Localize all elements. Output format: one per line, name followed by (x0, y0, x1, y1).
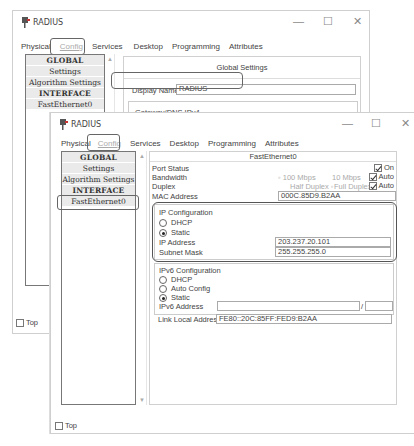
titlebar: RADIUS — ☐ ✕ (13, 11, 369, 33)
sidebar-global: GLOBAL (26, 55, 104, 66)
ipv6-static-radio[interactable] (159, 294, 167, 302)
tab-programming[interactable]: Programming (172, 41, 220, 55)
full-duplex-radio[interactable]: Full Duplex (334, 182, 372, 191)
maximize-button[interactable]: ☐ (371, 117, 381, 130)
top-checkbox-row[interactable]: Top (55, 421, 77, 430)
top-checkbox[interactable] (16, 319, 24, 327)
ipv6-title: IPv6 Configuration (159, 266, 221, 275)
bandwidth-100-radio[interactable]: ◦ 100 Mbps (278, 173, 316, 182)
ipv6-dhcp-radio[interactable] (159, 276, 167, 284)
sidebar-item-algorithm[interactable]: Algorithm Settings (26, 77, 104, 88)
sidebar-item-settings[interactable]: Settings (62, 163, 135, 174)
fastethernet0-highlight (57, 195, 139, 210)
fastethernet0-panel: FastEthernet0 Port Status On Bandwidth ◦… (149, 151, 397, 405)
port-on-checkbox[interactable] (374, 164, 382, 172)
tab-physical[interactable]: Physical (21, 41, 51, 55)
link-local-field[interactable]: FE80::20C:85FF:FED9:B2AA (216, 314, 392, 324)
scroll-up-icon[interactable]: ▲ (107, 56, 113, 62)
server-icon (59, 119, 69, 130)
mac-address-field[interactable]: 000C.85D9.B2AA (278, 191, 396, 201)
tab-attributes[interactable]: Attributes (265, 138, 299, 152)
ipv6-auto-radio[interactable] (159, 285, 167, 293)
minimize-button[interactable]: — (342, 117, 353, 129)
display-name-highlight (111, 72, 243, 89)
sidebar-interface: INTERFACE (26, 88, 104, 99)
tab-attributes[interactable]: Attributes (229, 41, 263, 55)
duplex-auto[interactable]: Auto (369, 181, 394, 190)
maximize-button[interactable]: ☐ (323, 15, 333, 28)
sidebar-global: GLOBAL (62, 152, 135, 163)
close-button[interactable]: ✕ (401, 117, 410, 130)
ipv6-address-input[interactable] (217, 301, 360, 311)
titlebar: RADIUS — ☐ ✕ (51, 113, 414, 135)
server-icon (21, 17, 31, 28)
ipv6-prefix-input[interactable] (365, 301, 393, 311)
front-window: RADIUS — ☐ ✕ Physical Config Services De… (50, 112, 414, 434)
sidebar-list: GLOBAL Settings Algorithm Settings INTER… (61, 151, 136, 405)
ip-config-highlight (152, 202, 397, 262)
sidebar-item-settings[interactable]: Settings (26, 66, 104, 77)
ipv6-address-label: IPv6 Address (159, 302, 203, 311)
minimize-button[interactable]: — (293, 15, 304, 27)
config-tab-highlight (87, 134, 120, 151)
top-checkbox-row[interactable]: Top (16, 318, 38, 327)
duplex-auto-checkbox[interactable] (369, 182, 377, 190)
port-status-toggle[interactable]: On (374, 163, 394, 172)
tab-desktop[interactable]: Desktop (134, 41, 163, 55)
bandwidth-auto[interactable]: Auto (369, 172, 394, 181)
port-status-label: Port Status (152, 164, 189, 173)
bandwidth-label: Bandwidth (152, 173, 187, 182)
panel-title: FastEthernet0 (150, 152, 396, 162)
bandwidth-auto-checkbox[interactable] (369, 173, 377, 181)
close-button[interactable]: ✕ (353, 15, 362, 28)
ipv6-static-option[interactable]: Static (159, 293, 190, 302)
window-title: RADIUS (33, 18, 63, 27)
sidebar-item-fastethernet0[interactable]: FastEthernet0 (26, 99, 104, 110)
sidebar-scrollbar[interactable]: ▲ ▼ (137, 151, 147, 405)
mac-label: MAC Address (152, 192, 198, 201)
ipv6-auto-option[interactable]: Auto Config (159, 284, 210, 293)
ipv6-dhcp-option[interactable]: DHCP (159, 275, 192, 284)
tab-services[interactable]: Services (92, 41, 123, 55)
tab-desktop[interactable]: Desktop (170, 138, 199, 152)
ipv6-group: IPv6 Configuration DHCP Auto Config Stat… (154, 263, 394, 315)
link-local-label: Link Local Address (158, 315, 221, 324)
scroll-down-icon[interactable]: ▼ (139, 397, 145, 403)
sidebar-item-algorithm[interactable]: Algorithm Settings (62, 174, 135, 185)
duplex-label: Duplex (152, 182, 175, 191)
window-title: RADIUS (71, 120, 101, 129)
half-duplex-radio[interactable]: Half Duplex ◦ (290, 182, 334, 191)
scroll-up-icon[interactable]: ▲ (139, 153, 145, 159)
bandwidth-10-radio[interactable]: 10 Mbps (332, 173, 361, 182)
config-tab-highlight (50, 38, 85, 55)
tab-services[interactable]: Services (130, 138, 161, 152)
top-checkbox[interactable] (55, 422, 63, 430)
prefix-slash: / (361, 302, 363, 311)
tab-programming[interactable]: Programming (208, 138, 256, 152)
